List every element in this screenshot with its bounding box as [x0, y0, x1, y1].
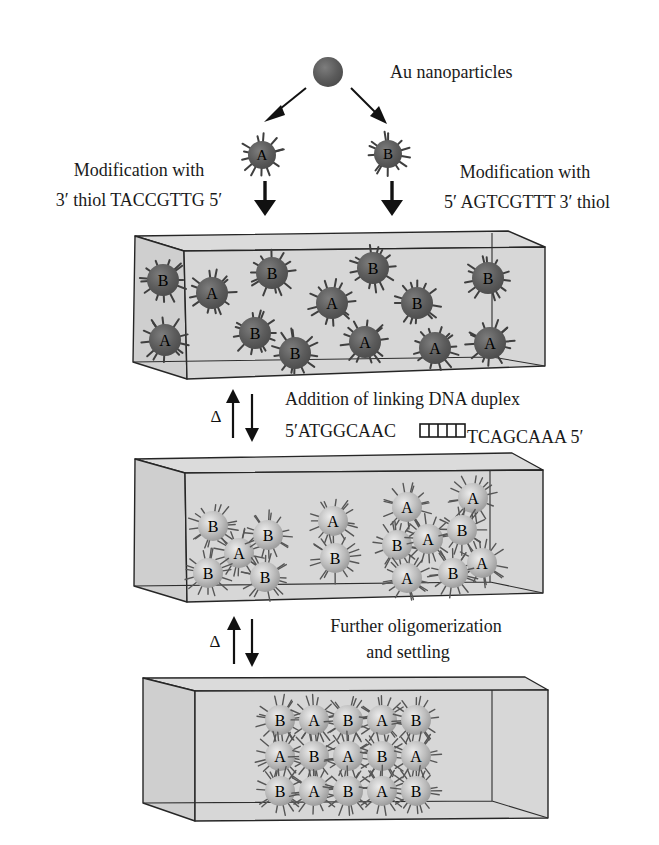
dna-strand-right: TCAGCAAA 5′	[467, 427, 584, 447]
delta-1-label: Δ	[211, 407, 222, 426]
particle-label: B	[267, 265, 278, 282]
seed-particles: AB	[242, 132, 410, 176]
linking-step-title: Addition of linking DNA duplex	[285, 389, 520, 409]
particle-label: A	[308, 712, 320, 729]
particle-label: B	[411, 712, 422, 729]
particle-label: A	[206, 285, 218, 302]
particle-label: A	[484, 335, 496, 352]
particle-label: B	[158, 272, 169, 289]
settling-step-line1: Further oligomerization	[330, 616, 501, 636]
particle-label: B	[448, 565, 459, 582]
particle-label: A	[376, 712, 388, 729]
left-modification-line1: Modification with	[74, 160, 204, 180]
particle-label: A	[233, 545, 245, 562]
settling-step-line2: and settling	[366, 642, 450, 662]
equilibrium-2-up-arrow-icon	[227, 616, 241, 664]
particle-label: A	[467, 490, 479, 507]
right-modification-line1: Modification with	[460, 162, 590, 182]
particle-label: B	[275, 712, 286, 729]
equilibrium-2-down-arrow-icon	[245, 619, 259, 667]
box3-left-face	[143, 678, 195, 821]
particle-label: A	[342, 748, 354, 765]
particle-label: A	[401, 570, 413, 587]
particle-b: B	[369, 132, 410, 176]
particle-label: B	[412, 295, 423, 312]
particle-a: A	[242, 133, 284, 175]
particle-label: A	[410, 748, 422, 765]
box3-particles: BABABABABABABAB	[255, 695, 441, 816]
particle-label: B	[368, 260, 379, 277]
particle-label: A	[359, 334, 371, 351]
box1-left-face	[133, 236, 187, 379]
down-arrow-right-icon	[381, 181, 403, 216]
particle-label: A	[476, 555, 488, 572]
particle-label: B	[377, 748, 388, 765]
particle-label: B	[383, 146, 393, 162]
split-arrow-right-icon	[351, 88, 387, 124]
particle-label: A	[376, 783, 388, 800]
au-nanoparticle-dot	[313, 57, 343, 87]
particle-label: B	[343, 783, 354, 800]
particle-label: A	[257, 147, 268, 163]
particle-label: B	[275, 783, 286, 800]
particle-label: A	[327, 513, 339, 530]
figure-page: { "colors": { "background": "#ffffff", "…	[0, 0, 659, 845]
box3-top-face	[143, 677, 548, 691]
particle-label: A	[401, 499, 413, 516]
particle-label: B	[411, 783, 422, 800]
split-arrow-left-icon	[264, 88, 306, 122]
equilibrium-1-down-arrow-icon	[245, 394, 259, 442]
particle-label: A	[159, 332, 171, 349]
box2-left-face	[134, 459, 187, 602]
particle-label: A	[429, 340, 441, 357]
dna-strand-left: 5′ATGGCAAC	[285, 421, 396, 441]
particle-label: B	[343, 712, 354, 729]
particle-label: B	[392, 537, 403, 554]
down-arrow-left-icon	[254, 181, 276, 216]
particle-label: B	[309, 748, 320, 765]
particle-label: A	[274, 748, 286, 765]
particle-label: A	[422, 531, 434, 548]
particle-label: B	[483, 270, 494, 287]
right-modification-line2: 5′ AGTCGTTT 3′ thiol	[444, 192, 610, 212]
particle-label: B	[260, 569, 271, 586]
left-modification-line2: 3′ thiol TACCGTTG 5′	[56, 190, 223, 210]
delta-2-label: Δ	[210, 632, 221, 651]
particle-label: B	[457, 522, 468, 539]
au-label: Au nanoparticles	[390, 62, 512, 82]
particle-label: B	[203, 565, 214, 582]
particle-label: B	[290, 345, 301, 362]
particle-label: A	[326, 295, 338, 312]
equilibrium-1-up-arrow-icon	[226, 389, 240, 438]
particle-label: B	[250, 325, 261, 342]
particle-label: B	[263, 527, 274, 544]
particle-label: B	[208, 518, 219, 535]
particle-label: A	[308, 783, 320, 800]
duplex-ladder-icon	[420, 424, 465, 437]
figure-canvas: Au nanoparticles Modification with 3′ th…	[0, 0, 659, 845]
particle-label: B	[330, 550, 341, 567]
